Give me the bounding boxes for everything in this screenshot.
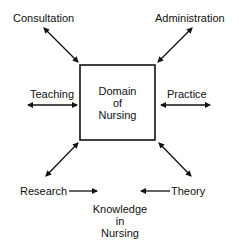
administration-arrow	[158, 28, 192, 62]
teaching-label: Teaching	[30, 88, 74, 100]
domain-line-3: Nursing	[80, 109, 155, 121]
knowledge-line-3: Nursing	[80, 227, 160, 239]
administration-label: Administration	[155, 12, 225, 24]
practice-label: Practice	[167, 88, 207, 100]
research-label: Research	[20, 185, 67, 197]
knowledge-line-2: in	[80, 215, 160, 227]
consultation-label: Consultation	[13, 12, 74, 24]
domain-label: Domain of Nursing	[80, 85, 155, 121]
theory-label: Theory	[171, 185, 205, 197]
domain-line-1: Domain	[80, 85, 155, 97]
theory-arrow	[159, 143, 191, 176]
knowledge-label: Knowledge in Nursing	[80, 203, 160, 239]
knowledge-line-1: Knowledge	[80, 203, 160, 215]
domain-line-2: of	[80, 97, 155, 109]
diagram-canvas: Domain of Nursing Consultation Administr…	[0, 0, 239, 252]
research-arrow	[46, 143, 78, 176]
consultation-arrow	[44, 28, 78, 62]
